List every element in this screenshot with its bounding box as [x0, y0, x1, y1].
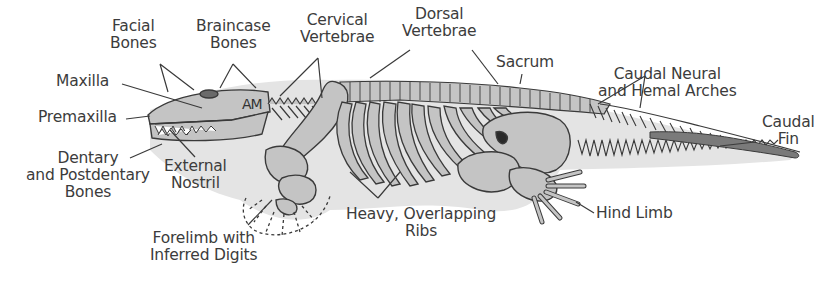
label-forelimb: Forelimb with Inferred Digits: [150, 230, 257, 264]
label-caudal-fin: Caudal Fin: [762, 114, 815, 148]
label-external-nostril: External Nostril: [164, 158, 227, 192]
label-maxilla: Maxilla: [56, 73, 109, 90]
label-dentary-postdentary: Dentary and Postdentary Bones: [26, 150, 150, 201]
label-hind-limb: Hind Limb: [596, 205, 673, 222]
label-sacrum: Sacrum: [496, 54, 554, 71]
label-cervical-vertebrae: Cervical Vertebrae: [300, 12, 374, 46]
label-dorsal-vertebrae: Dorsal Vertebrae: [402, 6, 476, 40]
label-braincase-bones: Braincase Bones: [196, 18, 270, 52]
skull-marker-am: AM: [242, 96, 262, 112]
label-ribs: Heavy, Overlapping Ribs: [346, 206, 496, 240]
tetrapod-skeleton-diagram: AM Facial Bones Braincase Bones Cervical…: [0, 0, 835, 291]
label-caudal-arches: Caudal Neural and Hemal Arches: [598, 66, 737, 100]
label-premaxilla: Premaxilla: [38, 109, 117, 126]
label-facial-bones: Facial Bones: [110, 18, 157, 52]
